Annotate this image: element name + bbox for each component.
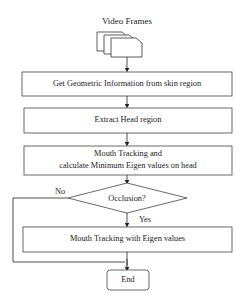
step-eigen-label: Mouth Tracking with Eigen values (23, 234, 232, 244)
branch-no-label: No (52, 187, 68, 197)
video-frames-icon (97, 32, 142, 57)
step-mouth-label-line1: Mouth Tracking and (24, 149, 232, 159)
decision-occlusion-label: Occlusion? (87, 194, 167, 204)
branch-yes-label: Yes (134, 215, 156, 225)
input-label: Video Frames (87, 16, 167, 26)
end-label: End (107, 275, 149, 285)
step-head-label: Extract Head region (24, 115, 232, 125)
step-geo-label: Get Geometric Information from skin regi… (22, 79, 232, 89)
step-mouth-label-line2: calculate Minimum Eigen values on head (24, 161, 232, 171)
